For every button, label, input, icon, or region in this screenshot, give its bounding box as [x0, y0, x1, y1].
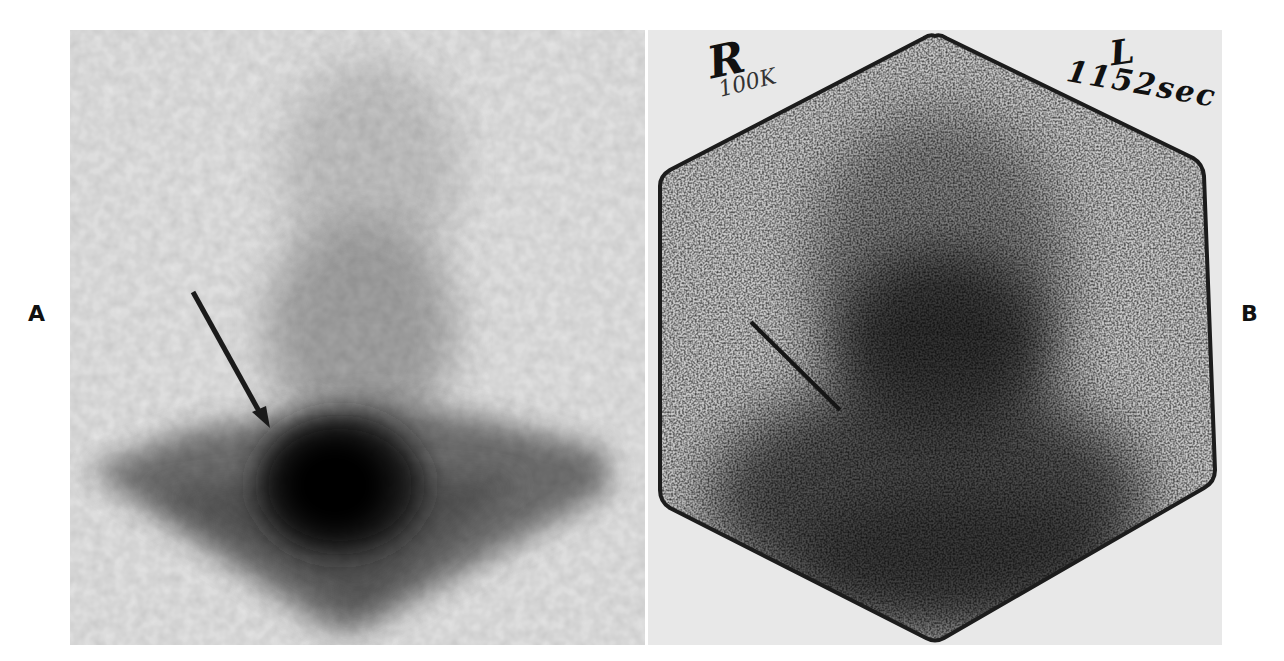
panel-a-image — [70, 30, 645, 645]
panel-label-a: A — [28, 301, 45, 326]
panel-b-image — [648, 30, 1222, 645]
panel-a-scintigram — [70, 30, 645, 645]
panel-label-b: B — [1241, 301, 1258, 326]
panel-b-scintigram — [648, 30, 1222, 645]
